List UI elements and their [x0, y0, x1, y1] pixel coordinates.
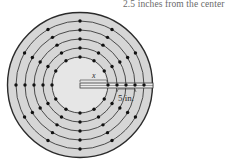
- track-dot: [97, 51, 100, 54]
- track-dot: [51, 131, 54, 134]
- track-dot: [31, 111, 34, 114]
- track-dot: [106, 131, 109, 134]
- track-dot: [78, 46, 81, 49]
- track-dot: [134, 115, 137, 118]
- track-dot: [78, 138, 81, 141]
- track-dot: [60, 51, 63, 54]
- track-dot: [23, 83, 26, 86]
- track-dot: [110, 65, 113, 68]
- track-dot: [23, 51, 26, 54]
- track-dot: [78, 129, 81, 132]
- track-dot: [92, 108, 95, 111]
- track-dot: [103, 97, 106, 100]
- track-dot: [55, 123, 58, 126]
- track-dot: [14, 83, 17, 86]
- track-dot: [64, 59, 67, 62]
- track-dot: [54, 69, 57, 72]
- track-dot: [46, 102, 49, 105]
- disk-diagram: x 5 in.: [0, 0, 241, 167]
- track-dot: [46, 65, 49, 68]
- track-dot: [110, 28, 113, 31]
- track-dot: [97, 115, 100, 118]
- track-dot: [118, 60, 121, 63]
- track-dot: [78, 28, 81, 31]
- track-dot: [41, 83, 44, 86]
- track-dot: [78, 111, 81, 114]
- track-dot: [110, 102, 113, 105]
- track-dot: [92, 59, 95, 62]
- track-dot: [78, 19, 81, 22]
- track-dot: [142, 83, 145, 86]
- track-dot: [101, 43, 104, 46]
- track-dot: [126, 56, 129, 59]
- track-dot: [133, 83, 136, 86]
- track-dot: [78, 37, 81, 40]
- x-label: x: [91, 71, 96, 80]
- track-dot: [78, 147, 81, 150]
- outer-measure-label: 5 in.: [118, 93, 134, 103]
- track-dot: [54, 97, 57, 100]
- track-dot: [106, 83, 109, 86]
- track-dot: [134, 51, 137, 54]
- track-dot: [118, 106, 121, 109]
- track-dot: [115, 83, 118, 86]
- track-dot: [78, 120, 81, 123]
- track-dot: [38, 106, 41, 109]
- track-dot: [126, 111, 129, 114]
- track-dot: [50, 83, 53, 86]
- track-dot: [38, 60, 41, 63]
- track-dot: [46, 139, 49, 142]
- track-dot: [32, 83, 35, 86]
- track-dot: [31, 56, 34, 59]
- track-dot: [23, 115, 26, 118]
- track-dot: [60, 115, 63, 118]
- track-dot: [110, 139, 113, 142]
- track-dot: [55, 43, 58, 46]
- track-dot: [51, 36, 54, 39]
- track-dot: [106, 36, 109, 39]
- track-dot: [124, 83, 127, 86]
- track-dot: [64, 108, 67, 111]
- track-dot: [78, 55, 81, 58]
- track-dot: [101, 123, 104, 126]
- track-dot: [103, 69, 106, 72]
- track-dot: [46, 28, 49, 31]
